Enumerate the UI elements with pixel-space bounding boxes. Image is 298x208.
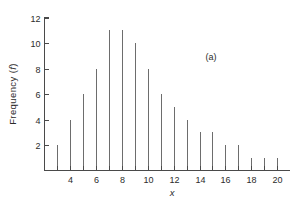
x-tick-label: 12 <box>169 175 179 185</box>
x-tick-label: 18 <box>246 175 256 185</box>
panel-annotation-label: (a) <box>206 52 217 62</box>
x-tick-label: 16 <box>220 175 230 185</box>
y-tick-label: 8 <box>35 65 40 75</box>
x-tick-label: 20 <box>272 175 282 185</box>
y-tick-label: 4 <box>35 116 40 126</box>
y-tick-label: 2 <box>35 141 40 151</box>
y-tick-label: 10 <box>30 39 40 49</box>
x-tick-label: 10 <box>143 175 153 185</box>
x-tick-label: 14 <box>195 175 205 185</box>
y-tick-label: 12 <box>30 14 40 24</box>
figure-panel-a: 24681012 468101214161820 Frequency (f) x… <box>0 0 298 208</box>
frequency-distribution-chart: 24681012 468101214161820 Frequency (f) x… <box>0 0 298 208</box>
x-tick-label: 4 <box>68 175 73 185</box>
x-tick-label: 6 <box>94 175 99 185</box>
x-tick-label: 8 <box>120 175 125 185</box>
y-axis-title: Frequency (f) <box>7 63 18 125</box>
y-tick-label: 6 <box>35 90 40 100</box>
